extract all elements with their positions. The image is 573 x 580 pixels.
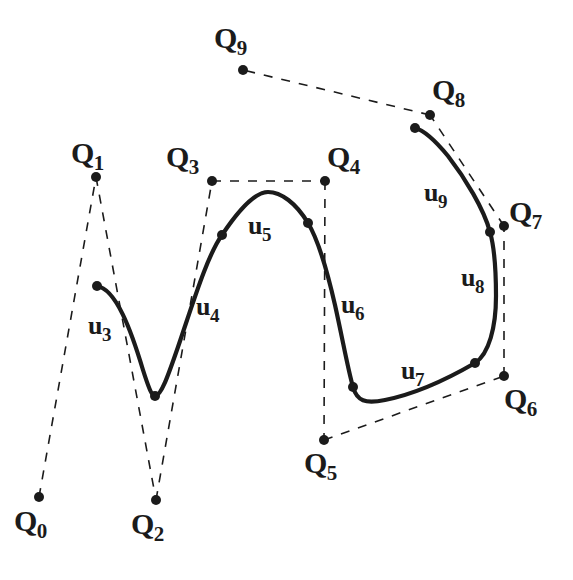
control-point-label-q6: Q6 (504, 384, 537, 420)
segment-label-u6: u6 (341, 292, 364, 323)
control-point-label-q2: Q2 (131, 509, 164, 545)
segment-label-u7: u7 (401, 358, 424, 389)
control-point-dot-q0[interactable] (34, 492, 44, 502)
control-point-label-sub-q1: 1 (94, 151, 105, 175)
control-point-label-sub-q2: 2 (154, 522, 165, 546)
control-point-dot-q7[interactable] (499, 221, 509, 231)
segment-label-u3: u3 (88, 313, 111, 344)
control-point-label-sub-q0: 0 (37, 519, 48, 543)
control-point-label-base-q3: Q (166, 140, 189, 173)
control-point-label-base-q0: Q (14, 504, 37, 537)
segment-label-sub-u9: 9 (438, 191, 448, 212)
knot-markers (92, 123, 495, 401)
segment-label-u5: u5 (248, 213, 271, 244)
control-point-dot-q6[interactable] (499, 371, 509, 381)
segment-label-base-u5: u (248, 211, 262, 240)
control-point-label-sub-q9: 9 (237, 36, 248, 60)
segment-label-base-u9: u (424, 178, 438, 207)
spline-path (97, 128, 496, 402)
spline-curve (97, 128, 496, 402)
control-point-label-base-q7: Q (509, 195, 532, 228)
control-point-dot-q8[interactable] (425, 110, 435, 120)
segment-label-sub-u7: 7 (415, 369, 425, 390)
control-point-label-q8: Q8 (432, 75, 465, 111)
control-point-label-sub-q7: 7 (532, 210, 543, 234)
polygon-leg-Q4-Q5 (324, 181, 325, 440)
control-point-label-q0: Q0 (14, 506, 47, 542)
control-point-label-q3: Q3 (166, 142, 199, 178)
polygon-leg-Q8-Q9 (243, 70, 430, 115)
control-point-dot-q3[interactable] (207, 176, 217, 186)
knot-dot-0 (92, 281, 102, 291)
segment-label-base-u4: u (196, 292, 210, 321)
segment-label-sub-u8: 8 (475, 276, 485, 297)
control-point-dot-q5[interactable] (319, 435, 329, 445)
control-point-label-q5: Q5 (304, 448, 337, 484)
control-point-label-q1: Q1 (71, 138, 104, 174)
control-point-label-q4: Q4 (327, 142, 360, 178)
control-point-label-q9: Q9 (214, 23, 247, 59)
control-point-label-base-q2: Q (131, 507, 154, 540)
control-point-label-sub-q4: 4 (350, 155, 361, 179)
control-point-label-base-q4: Q (327, 140, 350, 173)
knot-dot-4 (348, 382, 358, 392)
segment-label-sub-u3: 3 (102, 324, 112, 345)
spline-figure: . . . . . Q0Q1Q2Q3Q4Q5Q6Q7Q8Q9u3u4u5u6u7… (0, 0, 573, 580)
knot-dot-2 (217, 230, 227, 240)
control-point-label-sub-q5: 5 (327, 461, 338, 485)
segment-label-base-u7: u (401, 356, 415, 385)
control-point-label-base-q1: Q (71, 136, 94, 169)
segment-label-sub-u6: 6 (355, 303, 365, 324)
control-point-label-base-q8: Q (432, 73, 455, 106)
control-point-dot-q9[interactable] (238, 65, 248, 75)
control-point-label-sub-q3: 3 (189, 155, 200, 179)
segment-label-u9: u9 (424, 180, 447, 211)
segment-label-base-u8: u (461, 263, 475, 292)
knot-dot-5 (470, 358, 480, 368)
control-point-label-sub-q6: 6 (527, 397, 538, 421)
knot-dot-6 (485, 227, 495, 237)
control-polygon (39, 70, 504, 500)
control-point-label-base-q6: Q (504, 382, 527, 415)
knot-dot-1 (150, 391, 160, 401)
knot-dot-3 (303, 218, 313, 228)
segment-label-u8: u8 (461, 265, 484, 296)
polygon-leg-Q2-Q3 (156, 181, 212, 500)
segment-label-base-u3: u (88, 311, 102, 340)
segment-label-u4: u4 (196, 294, 219, 325)
control-point-markers (34, 65, 509, 505)
control-point-dot-q2[interactable] (151, 495, 161, 505)
knot-dot-7 (410, 123, 420, 133)
segment-label-sub-u4: 4 (210, 305, 220, 326)
control-point-label-base-q9: Q (214, 21, 237, 54)
segment-label-base-u6: u (341, 290, 355, 319)
figure-canvas (0, 0, 573, 580)
segment-label-sub-u5: 5 (262, 224, 272, 245)
control-point-label-base-q5: Q (304, 446, 327, 479)
control-point-label-q7: Q7 (509, 197, 542, 233)
control-point-label-sub-q8: 8 (455, 88, 466, 112)
